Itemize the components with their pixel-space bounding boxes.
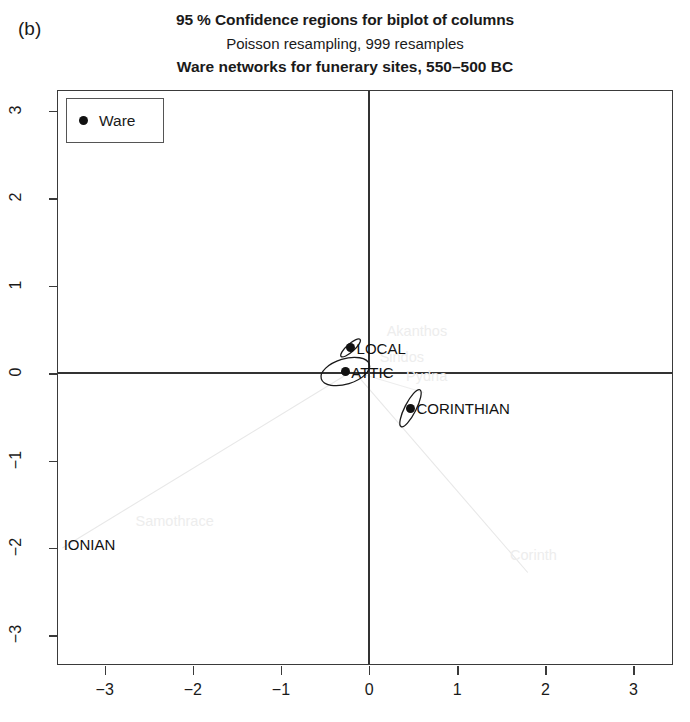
data-point-label: CORINTHIAN	[417, 400, 510, 417]
x-axis-tick-label: −3	[85, 681, 125, 699]
y-axis-tick	[49, 548, 58, 549]
site-label: Corinth	[510, 547, 557, 563]
x-axis-tick	[193, 666, 194, 675]
axis-endpoint-label: IONIAN	[64, 536, 116, 553]
y-axis-tick	[49, 111, 58, 112]
x-axis-tick-label: 3	[613, 681, 653, 699]
chart-title-line1: 95 % Confidence regions for biplot of co…	[0, 8, 690, 32]
panel-letter: (b)	[18, 18, 41, 40]
y-axis-tick-label: −2	[7, 527, 25, 567]
y-axis-tick-label: 2	[7, 177, 25, 217]
y-axis-tick-label: −1	[7, 440, 25, 480]
x-axis-tick	[545, 666, 546, 675]
y-axis-tick-label: 1	[7, 265, 25, 305]
y-axis-tick	[49, 373, 58, 374]
y-axis-tick	[49, 635, 58, 636]
legend-marker-icon	[79, 116, 88, 125]
site-label: Samothrace	[136, 513, 214, 529]
x-axis-tick-label: 2	[525, 681, 565, 699]
y-axis-tick	[49, 286, 58, 287]
chart-title-line2: Poisson resampling, 999 resamples	[0, 32, 690, 55]
legend-label: Ware	[99, 112, 135, 130]
site-label: Pydna	[406, 368, 447, 384]
x-axis-tick-label: −2	[173, 681, 213, 699]
y-axis-tick-label: 3	[7, 90, 25, 130]
x-axis-tick-label: 0	[349, 681, 389, 699]
plot-area: AkanthosSindosPydnaSamothraceCorinthIONI…	[57, 90, 673, 665]
data-point-label: ATTIC	[351, 364, 393, 381]
y-axis-tick-label: −3	[7, 614, 25, 654]
chart-title-line3: Ware networks for funerary sites, 550–50…	[0, 55, 690, 79]
data-point-label: LOCAL	[357, 340, 406, 357]
chart-legend[interactable]: Ware	[66, 98, 164, 143]
data-point[interactable]	[406, 404, 415, 413]
x-axis-tick	[369, 666, 370, 675]
x-axis-tick	[633, 666, 634, 675]
chart-title-block: 95 % Confidence regions for biplot of co…	[0, 8, 690, 79]
y-axis-tick-label: 0	[7, 352, 25, 392]
site-label: Akanthos	[387, 323, 447, 339]
data-point[interactable]	[341, 367, 350, 376]
x-axis-tick	[105, 666, 106, 675]
y-axis-tick	[49, 461, 58, 462]
plot-inner: AkanthosSindosPydnaSamothraceCorinthIONI…	[58, 91, 672, 664]
x-axis-tick-label: 1	[437, 681, 477, 699]
x-axis-tick	[281, 666, 282, 675]
y-axis-tick	[49, 198, 58, 199]
x-axis-tick-label: −1	[261, 681, 301, 699]
x-axis-tick	[457, 666, 458, 675]
